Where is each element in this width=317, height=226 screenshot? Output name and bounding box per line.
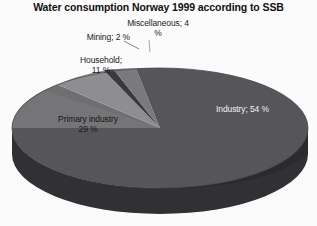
- pie-label-primary-industry: Primary industry 29 %: [36, 114, 140, 134]
- pie-label-household: Household; 11 %: [60, 55, 142, 75]
- leader-line-mining: [124, 41, 139, 49]
- chart-canvas: Water consumption Norway 1999 according …: [0, 0, 317, 226]
- pie-label-industry: Industry; 54 %: [216, 104, 316, 114]
- pie-label-mining: Mining; 2 %: [52, 32, 130, 42]
- leader-line-miscellaneous: [149, 40, 150, 52]
